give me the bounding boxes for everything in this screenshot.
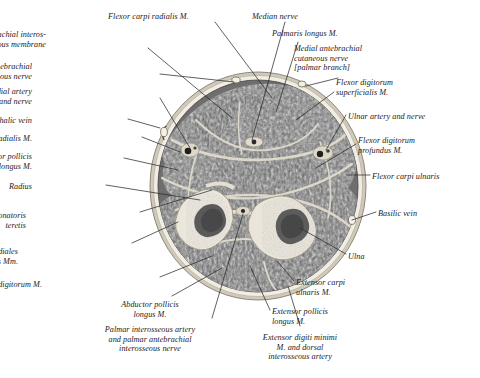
label-lateral-antebrachial-cutaneous-nerve: Lateral antebrachial cutaneous nerve [0,62,32,81]
label-abductor-pollicis-longus: Abductor pollicis longus M. [60,300,240,319]
label-cephalic-vein: Cephalic vein [0,116,32,126]
medial-antebrachial-cutaneous-nerve-lumen [298,81,306,87]
median-nerve-bundle [245,137,263,147]
label-medial-antebrachial-cutaneous-nerve: Medial antebrachial cutaneous nerve [pal… [294,44,362,73]
label-flexor-carpi-radialis: Flexor carpi radialis M. [108,12,189,22]
forearm-cross-section-plate [0,0,480,378]
label-radius: Radius [9,182,32,192]
label-extensor-pollicis-longus: Extensor pollicis longus M. [272,307,328,326]
label-ulnar-artery-and-nerve: Ulnar artery and nerve [348,112,425,122]
label-extensor-carpi-ulnaris: Extensor carpi ulnaris M. [296,278,345,297]
label-brachioradialis: Brachioradialis M. [0,134,32,144]
label-flexor-carpi-ulnaris: Flexor carpi ulnaris [372,172,439,182]
radial-artery-and-nerve-bundle [181,143,199,157]
label-extensores-carpi-radiales: Extensores carpi radiales longus and bre… [0,247,18,266]
label-basilic-vein: Basilic vein [378,209,417,219]
label-tendo-m-pronatoris-teretis: Tendo m. pronatoris teretis [0,211,26,230]
label-median-nerve: Median nerve [252,12,298,22]
ulnar-artery-and-nerve-bundle [313,146,333,160]
label-flexor-pollicis-longus: Flexor pollicis longus M. [0,152,32,171]
label-ulna: Ulna [348,252,365,262]
label-antebrachial-interosseous-membrane: Antebrachial interos- seous membrane [0,30,46,49]
label-flexor-digitorum-superficialis: Flexor digitorum superficialis M. [336,78,393,97]
label-extensor-digitorum: Extensor digitorum M. [0,280,42,290]
label-extensor-digiti-minimi: Extensor digiti minimi M. and dorsal int… [210,333,390,362]
label-flexor-digitorum-profundus: Flexor digitorum profundus M. [358,136,415,155]
label-palmaris-longus: Palmaris longus M. [272,29,338,39]
label-radial-artery-and-nerve: Radial artery and nerve [0,87,32,106]
